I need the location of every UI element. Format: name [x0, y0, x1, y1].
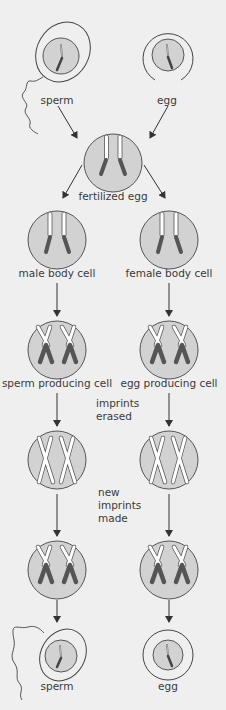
label-egg-bottom: egg [158, 680, 178, 692]
label-sperm-bottom: sperm [41, 680, 74, 692]
new-imprint-male-cell [28, 541, 86, 599]
note-erase-line1: imprints [96, 397, 139, 410]
label-sperm-producing-cell: sperm producing cell [2, 377, 112, 389]
label-fertilized-egg: fertilized egg [78, 190, 147, 202]
label-male-body-cell: male body cell [19, 267, 96, 279]
label-egg-top: egg [157, 94, 177, 106]
note-erase-line2: erased [96, 410, 139, 423]
erased-female-cell [140, 431, 198, 489]
note-new-line1: new [98, 486, 141, 499]
male-body-cell [28, 211, 86, 269]
note-new-line3: made [98, 512, 141, 525]
sperm-top [22, 12, 101, 134]
label-sperm-top: sperm [41, 94, 74, 106]
note-new-imprints-made: new imprints made [98, 486, 141, 525]
egg-bottom [143, 630, 193, 680]
new-imprint-female-cell [140, 541, 198, 599]
label-egg-producing-cell: egg producing cell [120, 377, 217, 389]
female-body-cell [140, 211, 198, 269]
egg-top [143, 34, 193, 80]
imprinting-diagram [0, 0, 226, 710]
sperm-producing-cell [28, 321, 86, 379]
note-imprints-erased: imprints erased [96, 397, 139, 423]
label-female-body-cell: female body cell [126, 267, 213, 279]
egg-producing-cell [140, 321, 198, 379]
erased-male-cell [28, 431, 86, 489]
fertilized-egg-cell [84, 134, 142, 192]
note-new-line2: imprints [98, 499, 141, 512]
